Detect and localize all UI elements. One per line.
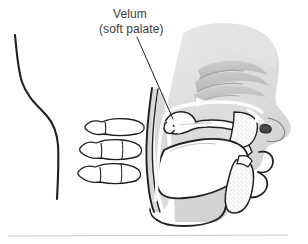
cervical-vertebrae [78, 119, 144, 184]
cervical-vertebra-3 [78, 164, 141, 184]
bottom-rule [8, 235, 288, 236]
velum-label: Velum [113, 7, 147, 21]
sagittal-head-neck-illustration [0, 0, 308, 244]
neck-contour [15, 35, 58, 199]
velum-sub-label: (soft palate) [99, 22, 164, 36]
nostril [260, 125, 271, 133]
figure-root: Velum (soft palate) Copyright © Cengage … [0, 0, 308, 244]
cervical-vertebra-1 [85, 119, 144, 136]
cervical-vertebra-2 [80, 140, 142, 160]
